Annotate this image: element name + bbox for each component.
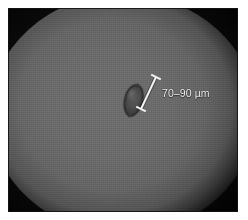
figure-root: 70–90 µm bbox=[0, 0, 248, 220]
scale-bar-label: 70–90 µm bbox=[162, 87, 210, 99]
specimen-cell-tip-bottom bbox=[128, 113, 132, 118]
micrograph-image: 70–90 µm bbox=[8, 8, 238, 212]
